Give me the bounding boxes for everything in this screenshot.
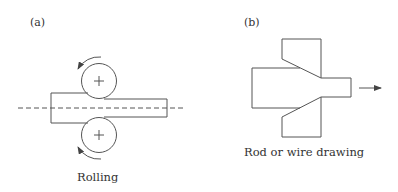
top-die-icon — [282, 39, 321, 78]
rod-exit-icon — [321, 78, 351, 97]
bottom-roll-icon — [82, 118, 117, 153]
panel-a-rolling: (a) Rolling — [18, 16, 183, 184]
panel-a-caption: Rolling — [77, 170, 119, 184]
top-roll-rotation-arrow-icon — [78, 57, 101, 69]
panel-b-label: (b) — [244, 16, 260, 29]
bottom-die-icon — [282, 97, 321, 137]
panel-a-label: (a) — [30, 16, 45, 29]
bottom-roll-rotation-arrow-icon — [78, 147, 101, 159]
rod-entry-icon — [252, 68, 300, 108]
panel-b-drawing: (b) Rod or wire drawing — [244, 16, 381, 159]
top-roll-icon — [82, 64, 117, 99]
figure-canvas: (a) Rolling (b) — [0, 0, 398, 192]
panel-b-caption: Rod or wire drawing — [244, 145, 365, 159]
